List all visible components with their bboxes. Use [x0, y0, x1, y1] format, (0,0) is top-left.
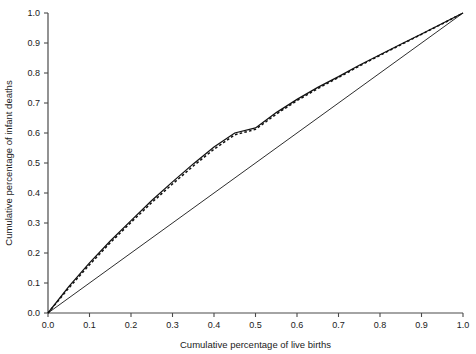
y-tick-label-group: 0.00.10.20.30.40.50.60.70.80.91.0 — [27, 8, 40, 318]
x-tick-label: 0.6 — [291, 320, 304, 330]
x-tick-label: 0.7 — [332, 320, 345, 330]
y-axis: 0.00.10.20.30.40.50.60.70.80.91.0 — [27, 8, 48, 318]
y-tick-label: 1.0 — [27, 8, 40, 18]
x-axis-title: Cumulative percentage of live births — [180, 339, 331, 350]
y-tick-label: 0.9 — [27, 38, 40, 48]
x-axis: 0.00.10.20.30.40.50.60.70.80.91.0 — [42, 313, 470, 330]
y-tick-label: 0.8 — [27, 68, 40, 78]
y-tick-label: 0.4 — [27, 188, 40, 198]
x-tick-label: 0.1 — [83, 320, 96, 330]
x-tick-label: 0.0 — [42, 320, 55, 330]
x-tick-label: 1.0 — [457, 320, 470, 330]
chart-canvas: 0.00.10.20.30.40.50.60.70.80.91.0 0.00.1… — [0, 0, 476, 354]
x-tick-label: 0.8 — [374, 320, 387, 330]
lorenz-curve-chart: 0.00.10.20.30.40.50.60.70.80.91.0 0.00.1… — [0, 0, 476, 354]
y-tick-label: 0.0 — [27, 308, 40, 318]
x-tick-label: 0.3 — [166, 320, 179, 330]
x-tick-label: 0.5 — [249, 320, 262, 330]
y-tick-label: 0.6 — [27, 128, 40, 138]
y-tick-label: 0.2 — [27, 248, 40, 258]
line-of-equality — [48, 13, 463, 313]
x-tick-label-group: 0.00.10.20.30.40.50.60.70.80.91.0 — [42, 320, 470, 330]
y-tick-label: 0.1 — [27, 278, 40, 288]
y-tick-label: 0.7 — [27, 98, 40, 108]
y-tick-label: 0.3 — [27, 218, 40, 228]
x-tick-label: 0.2 — [125, 320, 138, 330]
x-tick-label: 0.9 — [415, 320, 428, 330]
y-tick-label: 0.5 — [27, 158, 40, 168]
data-series-group — [48, 13, 463, 313]
y-axis-title: Cumulative percentage of infant deaths — [3, 80, 14, 246]
x-tick-label: 0.4 — [208, 320, 221, 330]
